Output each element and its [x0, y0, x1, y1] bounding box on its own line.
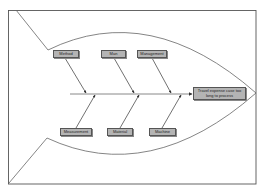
category-measurement: Measurement [60, 128, 92, 136]
category-man: Man [101, 50, 126, 58]
category-method: Method [53, 50, 79, 58]
effect-box: Travel expense case too long to process [193, 87, 246, 100]
category-management: Management [137, 50, 167, 58]
category-machine: Machine [149, 128, 176, 136]
fishbone-diagram: Method Man Management Measurement Materi… [0, 0, 264, 191]
category-material: Material [107, 128, 133, 136]
